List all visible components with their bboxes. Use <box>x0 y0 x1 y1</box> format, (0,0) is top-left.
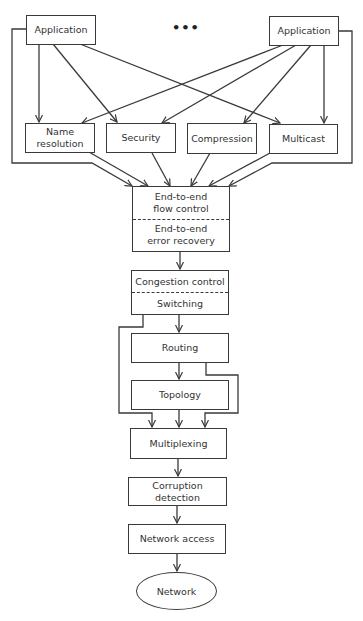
compression-box: Compression <box>187 123 257 154</box>
application-left-label: Application <box>34 24 87 36</box>
name-resolution-label-1: Name <box>46 126 74 138</box>
ellipsis: ••• <box>172 20 200 35</box>
network-label: Network <box>157 586 197 597</box>
arrow-appR-bypass <box>229 31 352 186</box>
e2e-error-label-2: error recovery <box>147 235 215 247</box>
e2e-error-recovery-section: End-to-end error recovery <box>133 220 229 252</box>
name-resolution-label-2: resolution <box>36 138 83 150</box>
topology-box: Topology <box>131 380 229 410</box>
application-right-box: Application <box>269 16 339 46</box>
switching-section: Switching <box>132 293 228 314</box>
application-right-label: Application <box>277 25 330 37</box>
security-label: Security <box>121 132 160 144</box>
arrow-security-e2e <box>152 153 170 186</box>
compression-label: Compression <box>191 133 253 145</box>
name-resolution-box: Name resolution <box>25 123 95 153</box>
congestion-control-section: Congestion control <box>132 271 228 293</box>
application-left-box: Application <box>26 15 96 45</box>
multiplexing-label: Multiplexing <box>150 438 208 450</box>
multicast-label: Multicast <box>282 133 325 145</box>
routing-label: Routing <box>162 342 198 354</box>
e2e-error-label-1: End-to-end <box>155 223 208 235</box>
e2e-flow-label-1: End-to-end <box>155 191 208 203</box>
network-access-label: Network access <box>140 533 215 545</box>
topology-label: Topology <box>159 389 201 401</box>
arrow-compression-e2e <box>191 153 210 186</box>
arrow-switching-bypass <box>119 314 152 427</box>
e2e-flow-control-section: End-to-end flow control <box>133 187 229 220</box>
congestion-switching-box: Congestion control Switching <box>131 270 229 315</box>
end-to-end-box: End-to-end flow control End-to-end error… <box>132 186 230 252</box>
arrow-appL-multicast <box>80 44 280 123</box>
security-box: Security <box>106 123 176 153</box>
network-ellipse: Network <box>136 572 217 610</box>
congestion-label: Congestion control <box>135 276 224 288</box>
corruption-label: Corruption detection <box>129 480 226 504</box>
arrow-appL-bypass <box>12 29 132 186</box>
arrow-nameres-e2e <box>89 152 148 186</box>
multiplexing-box: Multiplexing <box>130 428 227 459</box>
multicast-box: Multicast <box>269 124 338 154</box>
corruption-detection-box: Corruption detection <box>128 477 227 506</box>
arrow-appL-security <box>53 44 117 122</box>
routing-box: Routing <box>131 333 229 363</box>
e2e-flow-label-2: flow control <box>153 203 209 215</box>
network-access-box: Network access <box>128 524 226 554</box>
switching-label: Switching <box>157 298 203 310</box>
